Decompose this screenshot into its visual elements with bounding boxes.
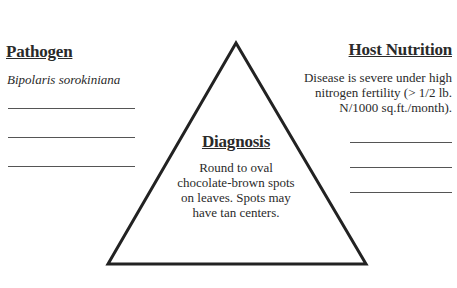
diagnosis-line: chocolate-brown spots: [156, 175, 316, 190]
pathogen-heading: Pathogen: [6, 42, 72, 62]
diagnosis-line: have tan centers.: [156, 205, 316, 220]
host-nutrition-line: nitrogen fertility (> 1/2 lb.: [282, 85, 452, 100]
host-nutrition-blank-line: [350, 167, 452, 168]
pathogen-blank-line: [8, 137, 135, 138]
host-nutrition-text: Disease is severe under high nitrogen fe…: [282, 70, 452, 115]
host-nutrition-blank-line: [350, 142, 452, 143]
diagnosis-line: on leaves. Spots may: [156, 190, 316, 205]
host-nutrition-heading: Host Nutrition: [349, 40, 452, 60]
pathogen-blank-line: [8, 108, 135, 109]
diagnosis-line: Round to oval: [156, 160, 316, 175]
diagnosis-heading: Diagnosis: [186, 132, 286, 152]
pathogen-blank-line: [8, 166, 135, 167]
diagnosis-text: Round to oval chocolate-brown spots on l…: [156, 160, 316, 220]
host-nutrition-line: N/1000 sq.ft./month).: [282, 100, 452, 115]
host-nutrition-line: Disease is severe under high: [282, 70, 452, 85]
pathogen-organism: Bipolaris sorokiniana: [7, 72, 120, 88]
host-nutrition-blank-line: [350, 192, 452, 193]
